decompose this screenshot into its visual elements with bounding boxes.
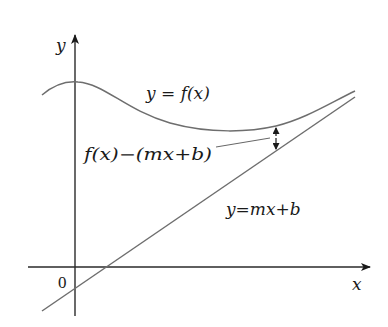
- x-axis-label: x: [352, 274, 362, 294]
- annotation-leader-line: [216, 138, 270, 147]
- asymptote-label: y=mx+b: [225, 199, 301, 219]
- y-axis-label: y: [55, 35, 66, 55]
- difference-label: f(x)−(mx+b): [83, 145, 212, 164]
- diagram-canvas: y x 0 y = f(x) y=mx+b f(x)−(mx+b): [0, 0, 388, 327]
- function-label: y = f(x): [145, 83, 210, 103]
- origin-label: 0: [58, 273, 67, 292]
